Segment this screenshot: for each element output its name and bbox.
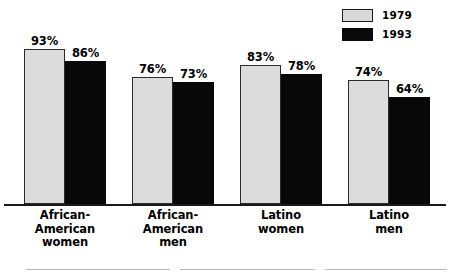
x-label-line: American [123, 223, 223, 237]
x-axis-category-labels: African- American women African- America… [0, 209, 452, 261]
plot-area: 93% 86% 76% 73% [0, 0, 452, 206]
grouped-bar-chart: 1979 1993 93% 86% [0, 0, 452, 272]
x-label-line: African- [15, 209, 115, 223]
x-label-line: Latino [339, 209, 439, 223]
bar-group-african-american-men: 76% 73% [132, 0, 214, 204]
bar-latino-men-1979: 74% [348, 0, 389, 204]
page-rule-segment [26, 269, 170, 270]
x-label-line: African- [123, 209, 223, 223]
x-label-line: American [15, 223, 115, 237]
bar-african-american-women-1993: 86% [65, 0, 106, 204]
bar-african-american-men-1993: 73% [173, 0, 214, 204]
bar-african-american-women-1979: 93% [24, 0, 65, 204]
x-axis-baseline [4, 204, 446, 206]
bar-value-label: 73% [180, 69, 207, 81]
x-label-line: Latino [231, 209, 331, 223]
x-label-latino-women: Latino women [231, 209, 331, 236]
x-label-african-american-women: African- American women [15, 209, 115, 250]
x-label-african-american-men: African- American men [123, 209, 223, 250]
bar-group-latino-women: 83% 78% [240, 0, 322, 204]
x-label-line: men [123, 236, 223, 250]
bar-latino-women-1993: 78% [281, 0, 322, 204]
bar-group-latino-men: 74% 64% [348, 0, 430, 204]
bar-value-label: 93% [31, 36, 58, 48]
bar-african-american-men-1979: 76% [132, 0, 173, 204]
page-rule-segment [180, 269, 315, 270]
bar-value-label: 86% [72, 48, 99, 60]
x-label-line: men [339, 223, 439, 237]
bar-value-label: 76% [139, 64, 166, 76]
page-rule-segment [325, 269, 447, 270]
bar-value-label: 78% [288, 61, 315, 73]
page-edge-rules [0, 262, 452, 272]
bar-latino-women-1979: 83% [240, 0, 281, 204]
bar-value-label: 74% [355, 67, 382, 79]
x-label-line: women [231, 223, 331, 237]
bar-group-african-american-women: 93% 86% [24, 0, 106, 204]
x-label-line: women [15, 236, 115, 250]
bar-value-label: 83% [247, 52, 274, 64]
bar-latino-men-1993: 64% [389, 0, 430, 204]
bar-value-label: 64% [396, 84, 423, 96]
x-label-latino-men: Latino men [339, 209, 439, 236]
